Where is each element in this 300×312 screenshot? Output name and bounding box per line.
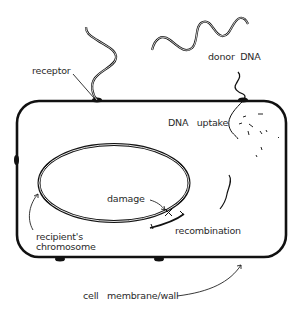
uptake-entering-dna — [235, 72, 245, 101]
receptor-bound-dna — [86, 27, 116, 100]
label-arrows — [29, 74, 241, 296]
damage-label: damage — [107, 194, 145, 204]
dna-uptake-label: DNA uptake — [168, 118, 228, 128]
donor-dna-label: donor DNA — [208, 52, 261, 62]
membrane-bump-left — [14, 155, 19, 165]
transformation-diagram — [0, 0, 300, 312]
dna-fragments — [239, 114, 279, 157]
receptor-label: receptor — [32, 66, 70, 76]
donor-dna-strand — [152, 18, 248, 50]
internal-dna-strand — [220, 175, 231, 209]
cell-membrane-wall-label: cell membrane/wall — [83, 291, 178, 301]
membrane-bump-bottom-2 — [154, 257, 164, 262]
membrane-bump-bottom-1 — [55, 257, 65, 262]
recipients-chromosome-label-line2: chromosome — [36, 242, 96, 252]
recombination-label: recombination — [175, 226, 241, 236]
uptake-internal-dna — [229, 101, 243, 139]
